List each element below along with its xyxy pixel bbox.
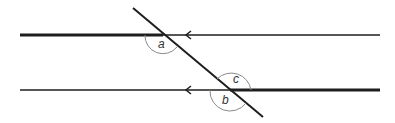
angle-c-label: c — [233, 72, 239, 86]
bottom-parallel-line — [20, 86, 380, 94]
parallel-lines-diagram: a c b — [0, 0, 395, 123]
angle-b-label: b — [222, 93, 229, 107]
angle-a-label: a — [158, 37, 165, 51]
diagram-canvas: a c b — [0, 0, 395, 123]
top-parallel-line — [20, 31, 380, 39]
transversal-line — [133, 8, 263, 117]
